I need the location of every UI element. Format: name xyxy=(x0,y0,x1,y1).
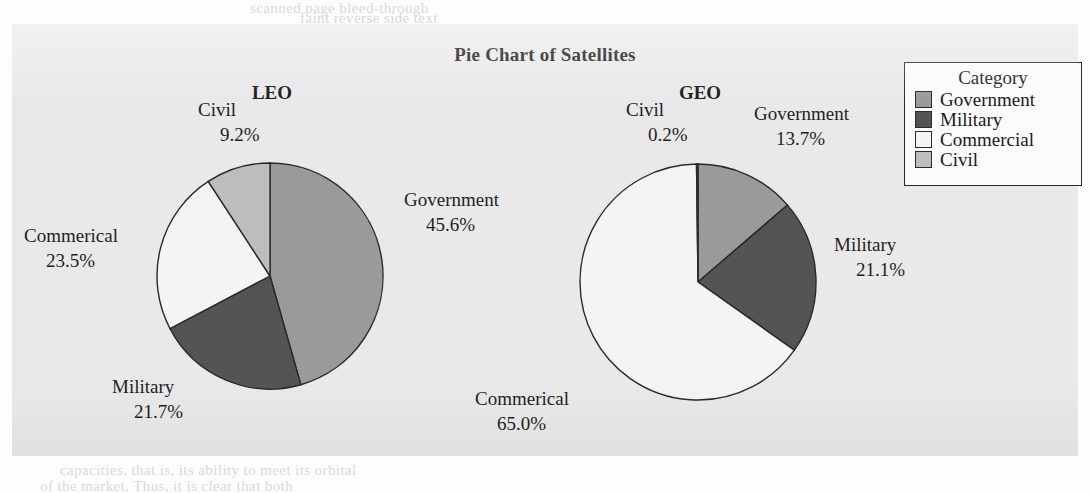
legend-title: Category xyxy=(905,67,1081,89)
pie-label-leo-government: Government xyxy=(404,189,500,210)
pie-value-geo-military: 21.1% xyxy=(856,259,905,280)
pie-label-leo-civil: Civil xyxy=(198,99,236,120)
legend-item-government[interactable]: Government xyxy=(915,90,1081,109)
pie-value-leo-civil: 9.2% xyxy=(220,124,260,145)
pie-label-geo-commerical: Commerical xyxy=(475,388,569,409)
page-bleed-text-bottom-1: capacities, that is, its ability to meet… xyxy=(60,462,357,479)
pie-value-geo-commerical: 65.0% xyxy=(497,413,546,434)
pie-value-leo-government: 45.6% xyxy=(426,214,475,235)
legend-swatch-commercial xyxy=(915,131,932,148)
legend-item-commercial[interactable]: Commercial xyxy=(915,130,1081,149)
pie-label-geo-government: Government xyxy=(754,103,850,124)
legend-swatch-military xyxy=(915,111,932,128)
pie-leo: Government45.6%Military21.7%Commerical23… xyxy=(24,99,500,422)
legend-label-civil: Civil xyxy=(940,150,978,169)
legend-item-civil[interactable]: Civil xyxy=(915,150,1081,169)
legend-swatch-civil xyxy=(915,151,932,168)
legend: Category Government Military Commercial … xyxy=(904,62,1082,186)
legend-label-military: Military xyxy=(940,110,1002,129)
legend-label-government: Government xyxy=(940,90,1035,109)
page-bleed-text-bottom-2: of the market. Thus, it is clear that bo… xyxy=(40,478,293,493)
pie-label-leo-commerical: Commerical xyxy=(24,225,118,246)
pie-label-geo-military: Military xyxy=(834,234,897,255)
pie-value-leo-military: 21.7% xyxy=(134,401,183,422)
legend-item-military[interactable]: Military xyxy=(915,110,1081,129)
chart-panel: Pie Chart of Satellites LEO GEO Governme… xyxy=(12,24,1078,456)
pie-value-geo-government: 13.7% xyxy=(776,128,825,149)
pie-geo: Government13.7%Military21.1%Commerical65… xyxy=(475,99,905,434)
legend-label-commercial: Commercial xyxy=(940,130,1034,149)
pie-value-leo-commerical: 23.5% xyxy=(46,250,95,271)
pie-label-geo-civil: Civil xyxy=(626,99,664,120)
pie-label-leo-military: Military xyxy=(112,376,175,397)
pie-value-geo-civil: 0.2% xyxy=(648,124,688,145)
legend-swatch-government xyxy=(915,91,932,108)
page-bleed-text-top-1: scanned page bleed-through xyxy=(250,0,429,17)
